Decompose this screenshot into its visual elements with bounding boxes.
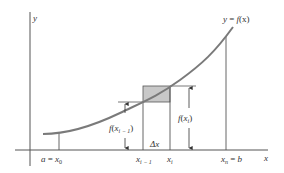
f-xim1-label: f(xi − 1) bbox=[109, 123, 133, 134]
x0-tick-label: a = x0 bbox=[41, 154, 62, 165]
y-axis-label: y bbox=[32, 13, 37, 23]
curve-label: y = f(x) bbox=[222, 14, 250, 24]
x-axis-label: x bbox=[263, 153, 268, 163]
xi-tick-label: xi bbox=[166, 154, 173, 165]
curve-f bbox=[43, 27, 233, 134]
xim1-tick-label: xi − 1 bbox=[135, 154, 152, 165]
f-xi-label: f(xi) bbox=[178, 113, 192, 124]
riemann-sum-diagram: y x y = f(x) f(xi − 1) f(xi) Δx a = x0 x… bbox=[0, 0, 284, 173]
delta-x-label: Δx bbox=[149, 139, 159, 149]
xn-tick-label: xn = b bbox=[220, 154, 243, 165]
